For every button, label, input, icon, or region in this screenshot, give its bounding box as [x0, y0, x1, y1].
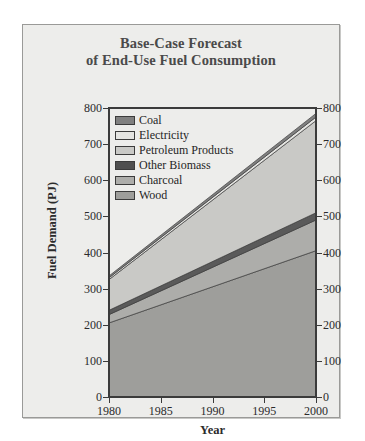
- legend-item-label: Charcoal: [139, 174, 182, 187]
- y-tick-right: [317, 253, 322, 254]
- y-axis-left-label: 600: [64, 175, 102, 185]
- y-axis-right-label: 500: [323, 211, 359, 221]
- y-tick-left: [103, 144, 108, 145]
- y-axis-title: Fuel Demand (PJ): [45, 171, 60, 291]
- legend-swatch-icon: [115, 161, 135, 170]
- y-axis-left-label: 300: [64, 284, 102, 294]
- legend-item-electricity[interactable]: Electricity: [115, 128, 233, 143]
- legend-item-charcoal[interactable]: Charcoal: [115, 173, 233, 188]
- legend-item-label: Petroleum Products: [139, 144, 233, 157]
- y-axis-left-line: [108, 107, 110, 398]
- y-axis-right-label: 300: [323, 284, 359, 294]
- y-tick-left: [103, 361, 108, 362]
- y-axis-left-label: 700: [64, 139, 102, 149]
- legend-item-coal[interactable]: Coal: [115, 113, 233, 128]
- x-tick: [264, 398, 265, 403]
- y-axis-left-label: 500: [64, 211, 102, 221]
- y-axis-right-label: 600: [323, 175, 359, 185]
- x-axis-label: 1985: [138, 404, 184, 419]
- x-tick: [109, 398, 110, 403]
- y-tick-left: [103, 108, 108, 109]
- chart-title-line-2: of End-Use Fuel Consumption: [23, 52, 339, 69]
- y-axis-right-label: 800: [323, 103, 359, 113]
- y-axis-left-label: 400: [64, 248, 102, 258]
- x-tick: [161, 398, 162, 403]
- y-tick-left: [103, 253, 108, 254]
- y-tick-left: [103, 216, 108, 217]
- legend-swatch-icon: [115, 176, 135, 185]
- y-tick-right: [317, 144, 322, 145]
- y-tick-right: [317, 108, 322, 109]
- legend-item-petroleum-products[interactable]: Petroleum Products: [115, 143, 233, 158]
- x-tick: [213, 398, 214, 403]
- y-tick-left: [103, 325, 108, 326]
- legend-item-label: Wood: [139, 189, 167, 202]
- legend-swatch-icon: [115, 146, 135, 155]
- legend-item-wood[interactable]: Wood: [115, 188, 233, 203]
- x-axis-label: 2000: [293, 404, 339, 419]
- y-axis-left-label: 200: [64, 320, 102, 330]
- legend-swatch-icon: [115, 191, 135, 200]
- y-axis-right-label: 100: [323, 356, 359, 366]
- legend-swatch-icon: [115, 131, 135, 140]
- x-axis-label: 1980: [86, 404, 132, 419]
- legend-item-label: Other Biomass: [139, 159, 211, 172]
- y-tick-right: [317, 180, 322, 181]
- y-axis-left-label: 800: [64, 103, 102, 113]
- y-tick-right: [317, 325, 322, 326]
- plot-top-border: [108, 107, 317, 109]
- y-tick-right: [317, 361, 322, 362]
- chart-legend: CoalElectricityPetroleum ProductsOther B…: [115, 113, 233, 203]
- legend-swatch-icon: [115, 116, 135, 125]
- y-axis-left-label: 100: [64, 356, 102, 366]
- x-tick: [316, 398, 317, 403]
- chart-title-line-1: Base-Case Forecast: [120, 35, 242, 51]
- y-tick-right: [317, 216, 322, 217]
- x-axis-label: 1990: [190, 404, 236, 419]
- y-axis-right-label: 0: [323, 392, 359, 402]
- x-axis-title: Year: [109, 423, 316, 438]
- y-axis-right-label: 700: [323, 139, 359, 149]
- y-tick-right: [317, 289, 322, 290]
- legend-item-other-biomass[interactable]: Other Biomass: [115, 158, 233, 173]
- y-axis-right-label: 400: [323, 248, 359, 258]
- y-tick-right: [317, 397, 322, 398]
- y-axis-left-label: 0: [64, 392, 102, 402]
- legend-item-label: Electricity: [139, 129, 189, 142]
- chart-page: Base-Case Forecast of End-Use Fuel Consu…: [0, 0, 365, 441]
- y-tick-left: [103, 180, 108, 181]
- y-axis-right-label: 200: [323, 320, 359, 330]
- y-tick-left: [103, 397, 108, 398]
- legend-item-label: Coal: [139, 114, 162, 127]
- chart-title: Base-Case Forecast of End-Use Fuel Consu…: [23, 35, 339, 69]
- chart-panel: Base-Case Forecast of End-Use Fuel Consu…: [22, 24, 340, 418]
- y-tick-left: [103, 289, 108, 290]
- x-axis-label: 1995: [241, 404, 287, 419]
